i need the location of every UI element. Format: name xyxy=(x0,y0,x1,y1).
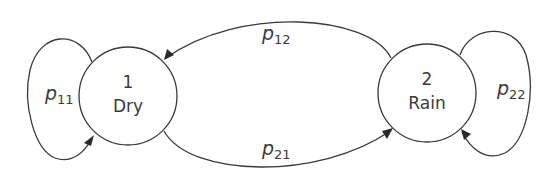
node-1-name: Dry xyxy=(113,96,143,116)
label-p21: p21 xyxy=(261,137,291,162)
node-1-number: 1 xyxy=(123,72,134,92)
node-2-name: Rain xyxy=(408,93,445,113)
node-2-number: 2 xyxy=(422,69,433,89)
label-p22: p22 xyxy=(496,77,526,102)
label-p11: p11 xyxy=(44,82,74,107)
arrowhead-1-to-2-icon xyxy=(382,128,393,139)
arrowhead-2-to-1-icon xyxy=(164,49,174,60)
node-1-dry: 1 Dry xyxy=(79,47,177,145)
diagram-svg: 1 Dry 2 Rain p11 p12 p21 p22 xyxy=(0,0,560,175)
label-p12: p12 xyxy=(261,22,291,47)
arrowhead-loop-1-icon xyxy=(84,135,94,146)
node-2-rain: 2 Rain xyxy=(378,44,476,142)
markov-diagram: 1 Dry 2 Rain p11 p12 p21 p22 xyxy=(0,0,560,175)
